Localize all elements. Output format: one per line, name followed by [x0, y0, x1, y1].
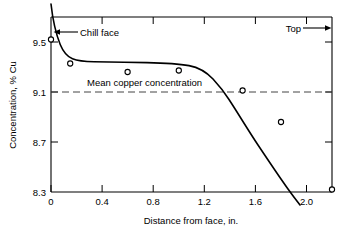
top-label: Top	[286, 23, 301, 34]
chart-figure: Chill face Top Mean copper concentration…	[0, 0, 349, 240]
data-point	[125, 69, 130, 74]
y-tick-label: 8.7	[33, 137, 46, 148]
y-axis-title: Concentration, % Cu	[7, 61, 18, 149]
x-tick-label: 1.6	[249, 196, 262, 207]
data-point	[48, 37, 53, 42]
concentration-vs-distance-chart: Chill face Top Mean copper concentration…	[0, 0, 349, 240]
data-point	[240, 88, 245, 93]
data-point	[176, 68, 181, 73]
y-tick-label: 8.3	[33, 187, 46, 198]
y-tick-label: 9.5	[33, 37, 46, 48]
x-axis-tick-labels: 0 0.4 0.8 1.2 1.6 2.0	[48, 196, 313, 207]
y-tick-label: 9.1	[33, 87, 46, 98]
x-axis-title: Distance from face, in.	[144, 215, 239, 226]
y-axis-tick-labels: 9.5 9.1 8.7 8.3	[33, 37, 46, 198]
plot-area-background	[51, 17, 332, 192]
mean-copper-concentration-label: Mean copper concentration	[87, 77, 202, 88]
x-tick-label: 1.2	[198, 196, 211, 207]
x-tick-label: 2.0	[300, 196, 313, 207]
x-tick-label: 0.8	[147, 196, 160, 207]
chill-face-label: Chill face	[80, 27, 119, 38]
data-point	[329, 187, 334, 192]
data-point	[68, 61, 73, 66]
x-tick-label: 0.4	[95, 196, 108, 207]
data-point	[278, 119, 283, 124]
x-tick-label: 0	[48, 196, 53, 207]
